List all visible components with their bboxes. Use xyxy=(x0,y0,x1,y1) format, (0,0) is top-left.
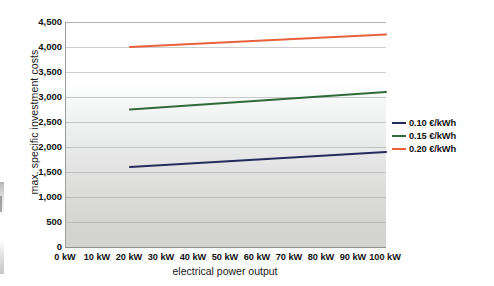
y-axis-tick-label: 1,500 xyxy=(26,167,62,177)
series-line xyxy=(130,35,386,48)
series-layer xyxy=(66,22,386,247)
legend-item: 0.20 €/kWh xyxy=(392,143,488,154)
y-axis-tick-label: 2,500 xyxy=(26,117,62,127)
y-axis-tick-label: 500 xyxy=(26,217,62,227)
series-line xyxy=(130,92,386,110)
legend-color-swatch xyxy=(392,135,406,137)
y-axis-tick-label: 2,000 xyxy=(26,142,62,152)
y-axis-tick-label: 1,000 xyxy=(26,192,62,202)
x-axis-title: electrical power output xyxy=(65,265,385,277)
y-axis-tick-label: 4,000 xyxy=(26,42,62,52)
y-axis-tick-label: 3,500 xyxy=(26,67,62,77)
series-line xyxy=(130,152,386,167)
chart-legend: 0.10 €/kWh0.15 €/kWh0.20 €/kWh xyxy=(392,117,488,156)
legend-color-swatch xyxy=(392,122,406,124)
y-axis-tick-label: 0 xyxy=(26,242,62,252)
legend-label: 0.10 €/kWh xyxy=(409,118,456,128)
y-axis-tick-label: 3,000 xyxy=(26,92,62,102)
y-axis-tick-label: 4,500 xyxy=(26,17,62,27)
legend-label: 0.20 €/kWh xyxy=(409,144,456,154)
y-axis-tick-labels: 05001,0001,5002,0002,5003,0003,5004,0004… xyxy=(26,16,62,253)
legend-color-swatch xyxy=(392,148,406,150)
x-axis-tick-labels: 0 kW10 kW20 kW30 kW40 kW50 kW60 kW70 kW8… xyxy=(65,252,385,266)
scan-artifact-secondary xyxy=(0,196,2,212)
legend-item: 0.15 €/kWh xyxy=(392,130,488,141)
legend-item: 0.10 €/kWh xyxy=(392,117,488,128)
plot-area xyxy=(65,22,386,248)
legend-label: 0.15 €/kWh xyxy=(409,131,456,141)
x-axis-tick-label: 100 kW xyxy=(355,252,415,262)
chart-container: max. specific investment costs 05001,000… xyxy=(0,0,494,286)
